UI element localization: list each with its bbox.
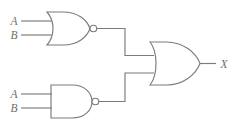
nand-inversion-bubble-icon bbox=[92, 98, 99, 105]
nor-inversion-bubble-icon bbox=[90, 25, 97, 32]
label-output-x: X bbox=[219, 58, 228, 70]
label-nor-input-b: B bbox=[10, 29, 17, 41]
logic-circuit-diagram: A B A B X bbox=[0, 0, 237, 129]
label-nor-input-a: A bbox=[9, 15, 18, 27]
nand-gate bbox=[21, 85, 99, 118]
label-nand-input-a: A bbox=[9, 88, 18, 100]
or-gate bbox=[150, 42, 200, 85]
nor-gate bbox=[21, 12, 97, 45]
nor-gate-body bbox=[47, 12, 90, 45]
circuit-canvas: A B A B X bbox=[0, 0, 237, 129]
nand-gate-body bbox=[51, 85, 92, 118]
label-nand-input-b: B bbox=[10, 102, 17, 114]
or-gate-body bbox=[150, 42, 200, 85]
net-nor-to-or bbox=[97, 29, 154, 56]
net-nand-to-or bbox=[99, 73, 154, 102]
